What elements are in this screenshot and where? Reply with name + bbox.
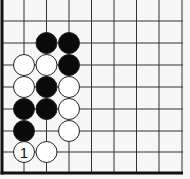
- black-stone-icon: [36, 77, 57, 98]
- black-stone: [36, 33, 57, 54]
- black-stone-icon: [14, 121, 35, 142]
- white-stone-icon: [36, 142, 57, 163]
- black-stone: [14, 99, 35, 120]
- black-stone: [36, 77, 57, 98]
- white-stone: [59, 121, 80, 142]
- black-stone: [36, 99, 57, 120]
- black-stone-icon: [14, 99, 35, 120]
- white-stone-1: 1: [14, 142, 35, 163]
- black-stone: [14, 121, 35, 142]
- white-stone-icon: [59, 99, 80, 120]
- move-number-label: 1: [20, 144, 28, 161]
- go-board: 1: [0, 0, 190, 179]
- white-stone-icon: [36, 55, 57, 76]
- black-stone-icon: [36, 33, 57, 54]
- white-stone: [14, 77, 35, 98]
- black-stone: [59, 33, 80, 54]
- white-stone: [59, 77, 80, 98]
- white-stone-icon: [14, 55, 35, 76]
- white-stone: [36, 55, 57, 76]
- black-stone: [59, 55, 80, 76]
- white-stone-icon: [59, 77, 80, 98]
- black-stone-icon: [36, 99, 57, 120]
- black-stone-icon: [59, 55, 80, 76]
- white-stone: [59, 99, 80, 120]
- stones-layer: 1: [14, 33, 80, 163]
- white-stone: [14, 55, 35, 76]
- white-stone: [36, 142, 57, 163]
- black-stone-icon: [59, 33, 80, 54]
- white-stone-icon: [59, 121, 80, 142]
- white-stone-icon: [14, 77, 35, 98]
